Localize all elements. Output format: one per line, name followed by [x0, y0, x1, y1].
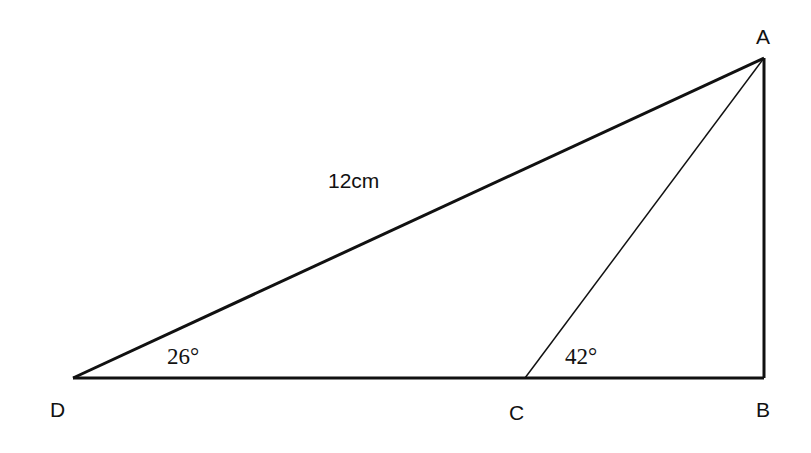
side-length-label: 12cm — [328, 170, 379, 191]
vertex-label-d: D — [50, 399, 65, 420]
angle-label-c: 42° — [565, 345, 597, 368]
segment-CA — [525, 58, 764, 378]
angle-label-d: 26° — [167, 345, 199, 368]
segment-DA — [73, 58, 764, 378]
vertex-label-b: B — [756, 399, 770, 420]
triangle-diagram — [0, 0, 811, 453]
vertex-label-a: A — [756, 26, 770, 47]
vertex-label-c: C — [509, 402, 524, 423]
